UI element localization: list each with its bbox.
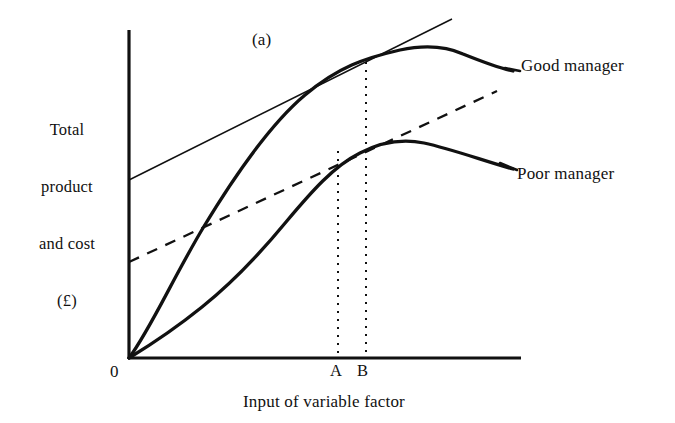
x-axis-title: Input of variable factor	[128, 392, 520, 412]
y-axis-title-line-4: (£)	[8, 291, 126, 310]
series-label-poor-manager: Poor manager	[517, 164, 614, 184]
curve-good-manager	[129, 47, 513, 358]
y-axis-title: Total product and cost (£)	[8, 82, 126, 348]
y-axis-title-line-1: Total	[8, 120, 126, 139]
tangent-line-good-manager	[129, 19, 452, 180]
x-tick-label-b: B	[357, 361, 368, 381]
series-label-good-manager: Good manager	[521, 56, 624, 76]
panel-label: (a)	[252, 30, 271, 50]
y-axis-title-line-3: and cost	[8, 234, 126, 253]
curve-poor-manager	[129, 141, 513, 358]
x-tick-label-a: A	[330, 361, 342, 381]
tangent-line-poor-manager	[129, 91, 497, 262]
origin-label: 0	[110, 362, 119, 382]
y-axis-title-line-2: product	[8, 177, 126, 196]
figure-panel-a: Total product and cost (£) (a) 0 A B Inp…	[0, 0, 675, 423]
